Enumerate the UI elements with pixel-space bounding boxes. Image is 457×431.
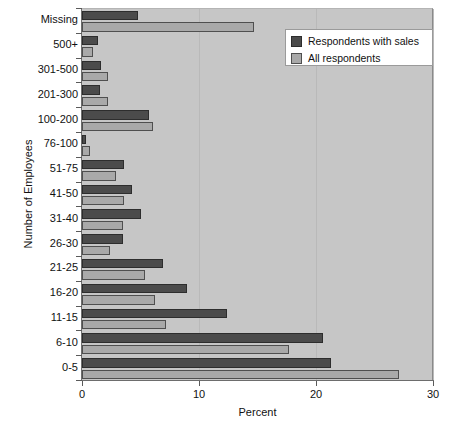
legend-item: All respondents bbox=[291, 50, 432, 66]
bar-all-respondents bbox=[82, 22, 254, 31]
x-tick-label: 0 bbox=[62, 388, 102, 400]
x-tick bbox=[316, 381, 317, 386]
x-tick bbox=[199, 381, 200, 386]
legend-item: Respondents with sales bbox=[291, 33, 432, 49]
y-tick bbox=[76, 256, 82, 257]
y-tick-label: 500+ bbox=[4, 39, 78, 50]
y-tick-label: 51-75 bbox=[4, 163, 78, 174]
bar-group bbox=[82, 183, 432, 208]
bar-all-respondents bbox=[82, 146, 90, 155]
y-tick bbox=[76, 355, 82, 356]
bar-all-respondents bbox=[82, 122, 153, 131]
y-tick-label: 301-500 bbox=[4, 64, 78, 75]
bar-respondents-with-sales bbox=[82, 309, 227, 318]
bar-group bbox=[82, 158, 432, 183]
y-axis-tick-labels: Missing500+301-500201-300100-20076-10051… bbox=[0, 0, 78, 431]
legend-label: All respondents bbox=[308, 52, 380, 64]
y-tick-label: 0-5 bbox=[4, 362, 78, 373]
x-axis-title: Percent bbox=[82, 406, 433, 418]
bar-all-respondents bbox=[82, 171, 116, 180]
bar-respondents-with-sales bbox=[82, 358, 331, 367]
y-tick bbox=[76, 306, 82, 307]
bar-all-respondents bbox=[82, 246, 110, 255]
x-tick bbox=[433, 381, 434, 386]
y-tick-label: 31-40 bbox=[4, 213, 78, 224]
x-tick-label: 10 bbox=[179, 388, 219, 400]
bar-respondents-with-sales bbox=[82, 135, 86, 144]
bar-group bbox=[82, 356, 432, 381]
bar-respondents-with-sales bbox=[82, 333, 323, 342]
bar-all-respondents bbox=[82, 196, 124, 205]
y-tick-label: 201-300 bbox=[4, 89, 78, 100]
y-tick bbox=[76, 281, 82, 282]
bar-respondents-with-sales bbox=[82, 85, 100, 94]
bar-respondents-with-sales bbox=[82, 160, 124, 169]
y-tick bbox=[76, 231, 82, 232]
x-tick bbox=[82, 381, 83, 386]
y-tick-label: 21-25 bbox=[4, 262, 78, 273]
bar-respondents-with-sales bbox=[82, 234, 123, 243]
bar-all-respondents bbox=[82, 97, 108, 106]
x-tick-label: 30 bbox=[413, 388, 453, 400]
bar-group bbox=[82, 133, 432, 158]
bar-respondents-with-sales bbox=[82, 284, 187, 293]
y-tick bbox=[76, 182, 82, 183]
bar-all-respondents bbox=[82, 270, 145, 279]
y-tick bbox=[76, 58, 82, 59]
legend-swatch-icon bbox=[291, 53, 302, 64]
y-tick bbox=[76, 132, 82, 133]
bar-group bbox=[82, 83, 432, 108]
legend-label: Respondents with sales bbox=[308, 35, 419, 47]
y-tick-label: 100-200 bbox=[4, 114, 78, 125]
bar-all-respondents bbox=[82, 370, 399, 379]
bar-respondents-with-sales bbox=[82, 61, 101, 70]
bar-group bbox=[82, 257, 432, 282]
y-tick bbox=[76, 206, 82, 207]
y-tick bbox=[76, 330, 82, 331]
bar-respondents-with-sales bbox=[82, 259, 163, 268]
bar-respondents-with-sales bbox=[82, 185, 132, 194]
y-tick-label: 11-15 bbox=[4, 312, 78, 323]
y-tick-label: Missing bbox=[4, 14, 78, 25]
y-tick-label: 26-30 bbox=[4, 238, 78, 249]
x-axis-line bbox=[81, 380, 434, 381]
y-tick bbox=[76, 33, 82, 34]
bar-all-respondents bbox=[82, 345, 289, 354]
y-axis-title: Number of Employees bbox=[22, 84, 34, 304]
bar-group bbox=[82, 232, 432, 257]
gridline bbox=[433, 9, 434, 381]
bar-group bbox=[82, 207, 432, 232]
bar-group bbox=[82, 307, 432, 332]
x-tick-label: 20 bbox=[296, 388, 336, 400]
y-tick-label: 76-100 bbox=[4, 138, 78, 149]
bar-respondents-with-sales bbox=[82, 110, 149, 119]
bar-respondents-with-sales bbox=[82, 209, 141, 218]
bar-respondents-with-sales bbox=[82, 11, 138, 20]
bar-group bbox=[82, 282, 432, 307]
bar-all-respondents bbox=[82, 320, 166, 329]
bar-group bbox=[82, 108, 432, 133]
bar-chart: Missing500+301-500201-300100-20076-10051… bbox=[0, 0, 457, 431]
y-tick-label: 41-50 bbox=[4, 188, 78, 199]
bar-all-respondents bbox=[82, 72, 108, 81]
bar-all-respondents bbox=[82, 295, 155, 304]
legend: Respondents with salesAll respondents bbox=[285, 29, 433, 66]
y-tick bbox=[76, 157, 82, 158]
y-tick-label: 6-10 bbox=[4, 337, 78, 348]
legend-swatch-icon bbox=[291, 36, 302, 47]
bar-respondents-with-sales bbox=[82, 36, 98, 45]
bar-group bbox=[82, 331, 432, 356]
y-tick bbox=[76, 107, 82, 108]
bar-all-respondents bbox=[82, 47, 93, 56]
bar-all-respondents bbox=[82, 221, 123, 230]
y-axis-line bbox=[81, 8, 82, 381]
y-tick-label: 16-20 bbox=[4, 287, 78, 298]
y-tick bbox=[76, 8, 82, 9]
y-tick bbox=[76, 82, 82, 83]
